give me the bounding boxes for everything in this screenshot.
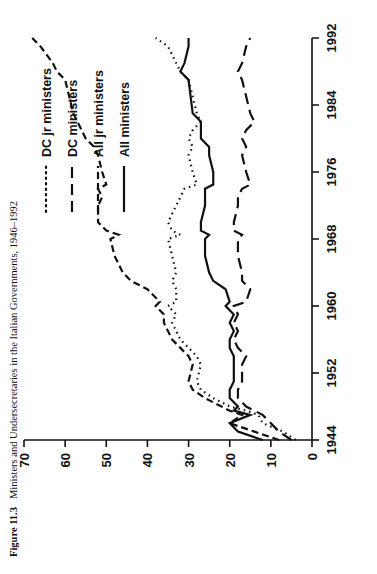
x-axis-ticks: 1944195219601968197619841992: [312, 24, 339, 455]
y-tick-label: 40: [140, 453, 155, 467]
series-line-all-ministers: [180, 38, 262, 440]
chart-legend: DC jr ministersDC ministersAll jr minist…: [40, 68, 132, 212]
figure-number: Figure 11.3: [8, 507, 19, 557]
y-tick-label: 10: [264, 453, 279, 467]
x-tick-label: 1992: [324, 24, 339, 53]
legend-label: DC jr ministers: [40, 68, 54, 157]
y-tick-label: 60: [58, 453, 73, 467]
legend-label: DC ministers: [66, 80, 80, 157]
y-tick-label: 30: [182, 453, 197, 467]
chart-rotated-wrapper: 1944195219601968197619841992 01020304050…: [0, 18, 360, 498]
series-line-dc-jr-ministers: [156, 38, 296, 440]
x-tick-label: 1976: [324, 158, 339, 187]
line-chart: 1944195219601968197619841992 01020304050…: [0, 18, 360, 498]
x-tick-label: 1952: [324, 359, 339, 388]
y-tick-label: 20: [223, 453, 238, 467]
y-tick-label: 50: [99, 453, 114, 467]
series-line-dc-ministers: [234, 38, 292, 440]
legend-label: All ministers: [118, 82, 132, 157]
y-tick-label: 70: [17, 453, 32, 467]
x-tick-label: 1960: [324, 292, 339, 321]
figure-page: Figure 11.3Ministers and Undersecretarie…: [0, 0, 377, 574]
x-tick-label: 1968: [324, 225, 339, 254]
y-tick-label: 0: [305, 453, 320, 460]
y-axis-ticks: 010203040506070: [17, 440, 320, 467]
x-tick-label: 1944: [324, 425, 339, 455]
legend-label: All jr ministers: [92, 70, 106, 157]
x-tick-label: 1984: [324, 90, 339, 120]
